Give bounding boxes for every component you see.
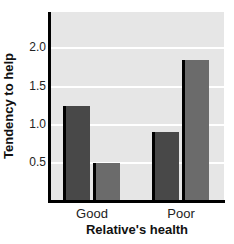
x-axis xyxy=(48,200,225,203)
bar-poor-series2 xyxy=(182,60,209,201)
y-tick-1-0: 1.0 xyxy=(18,117,46,131)
y-tick-2-0: 2.0 xyxy=(18,40,46,54)
category-good: Good xyxy=(62,206,122,221)
y-tick-1-5: 1.5 xyxy=(18,79,46,93)
gridline-2-0 xyxy=(50,47,224,49)
x-axis-label: Relative's health xyxy=(50,222,224,237)
y-axis-label: Tendency to help xyxy=(1,53,16,159)
y-axis xyxy=(48,12,51,203)
category-poor: Poor xyxy=(151,206,211,221)
bar-poor-series1 xyxy=(152,132,179,201)
bar-good-series2 xyxy=(93,163,120,201)
y-tick-0-5: 0.5 xyxy=(18,155,46,169)
bar-good-series1 xyxy=(63,106,90,201)
